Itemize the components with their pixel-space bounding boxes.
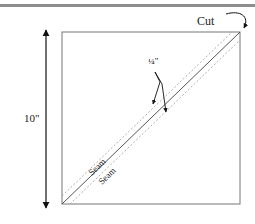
quarter-inch-label: ¼" (148, 56, 159, 66)
dimension-label: 10" (24, 112, 40, 124)
quarter-inch-arrow-left-icon (153, 72, 160, 104)
hst-diagram: Cut ¼" 10" Seam Seam (0, 0, 255, 224)
cut-label: Cut (197, 14, 215, 28)
cut-arrow-icon (226, 13, 246, 28)
